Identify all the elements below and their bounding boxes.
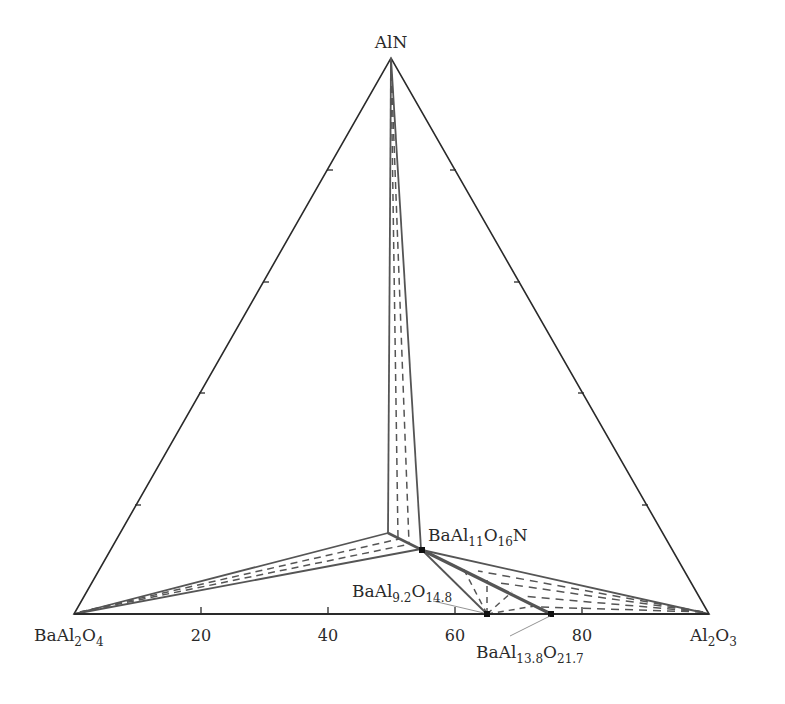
label-baal9-2o14-8: BaAl9.2O14.8 — [352, 581, 452, 605]
label-baal2o4: BaAl2O4 — [34, 625, 104, 649]
right-fan — [422, 550, 709, 614]
ternary-diagram: AlN BaAl2O4 Al2O3 20 40 60 80 BaAl11O16N… — [0, 0, 785, 704]
label-al2o3: Al2O3 — [689, 625, 737, 649]
bottom-axis-labels: 20 40 60 80 — [191, 626, 592, 645]
tick-label-40: 40 — [318, 626, 338, 645]
aln-column — [388, 58, 421, 549]
label-baal11o16n: BaAl11O16N — [428, 525, 528, 549]
point-baal13-8o21-7 — [548, 611, 554, 617]
tick-label-60: 60 — [445, 626, 465, 645]
tick-label-80: 80 — [572, 626, 592, 645]
outer-triangle — [74, 58, 709, 614]
tick-label-20: 20 — [191, 626, 211, 645]
label-baal13-8o21-7: BaAl13.8O21.7 — [476, 642, 584, 666]
inner-edges — [388, 533, 422, 550]
label-aln: AlN — [374, 32, 408, 52]
point-baal11o16n — [419, 547, 425, 553]
point-baal9-2o14-8 — [484, 611, 490, 617]
left-fan — [74, 533, 421, 614]
